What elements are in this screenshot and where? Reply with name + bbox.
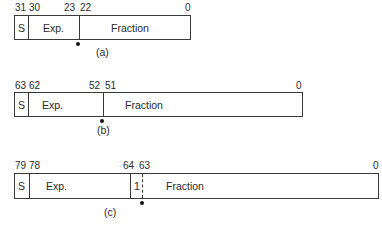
binary-point-dot (100, 119, 104, 123)
field-sign: S (18, 99, 25, 111)
exponent-divider (103, 93, 104, 116)
sign-divider (29, 174, 30, 198)
register-box: S Exp. Fraction (14, 15, 191, 40)
caption: (a) (96, 46, 109, 58)
field-fraction: Fraction (111, 22, 149, 34)
field-fraction: Fraction (125, 99, 163, 111)
field-fraction: Fraction (166, 180, 204, 192)
bit-label-exp-low: 23 (64, 3, 75, 13)
bit-label-fraction-low: 0 (373, 161, 379, 171)
bit-label-sign: 63 (15, 81, 26, 91)
register-box: S Exp. Fraction (14, 92, 303, 117)
bit-label-exp-high: 62 (29, 81, 40, 91)
caption: (c) (104, 206, 116, 218)
binary-point-dashed-line (142, 174, 143, 198)
caption: (b) (97, 124, 110, 136)
field-exponent: Exp. (46, 180, 67, 192)
field-integer-bit: 1 (134, 180, 140, 192)
sign-divider (28, 16, 29, 39)
bit-label-fraction-high: 63 (139, 161, 150, 171)
sign-divider (28, 93, 29, 116)
register-box: S Exp. 1 Fraction (14, 173, 379, 199)
field-sign: S (18, 180, 25, 192)
binary-point-dot (140, 201, 144, 205)
bit-label-exp-high: 30 (29, 3, 40, 13)
field-exponent: Exp. (42, 99, 63, 111)
binary-point-dot (76, 42, 80, 46)
bit-label-fraction-low: 0 (185, 3, 191, 13)
bit-label-exp-high: 78 (29, 161, 40, 171)
bit-label-exp-low: 52 (89, 81, 100, 91)
bit-label-sign: 79 (15, 161, 26, 171)
bit-label-fraction-low: 0 (296, 81, 302, 91)
bit-label-fraction-high: 22 (80, 3, 91, 13)
bit-label-exp-low: 64 (123, 161, 134, 171)
exponent-divider (79, 16, 80, 39)
bit-label-fraction-high: 51 (105, 81, 116, 91)
bit-label-sign: 31 (15, 3, 26, 13)
field-exponent: Exp. (43, 22, 64, 34)
exponent-divider (130, 174, 131, 198)
field-sign: S (18, 22, 25, 34)
